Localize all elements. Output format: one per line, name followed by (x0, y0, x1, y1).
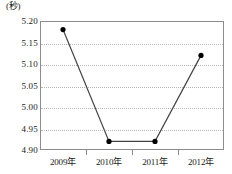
data-point-marker (152, 139, 157, 144)
series-line (63, 30, 201, 142)
data-point-marker (60, 27, 65, 32)
data-point-marker (198, 53, 203, 58)
data-series (0, 0, 232, 174)
data-point-marker (106, 139, 111, 144)
line-chart: (秒) 5.205.155.105.055.004.954.90 2009年20… (0, 0, 232, 174)
